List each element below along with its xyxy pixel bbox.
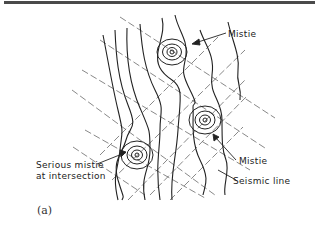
mistie-top-bullseye	[157, 39, 187, 65]
contour-lines	[103, 15, 240, 200]
serious-mistie-label-line2: at intersection	[36, 171, 106, 181]
mistie-right-label: Mistie	[239, 156, 267, 166]
panel-label: (a)	[37, 204, 52, 217]
mistie-top-label: Mistie	[228, 29, 256, 39]
mistie-right-bullseye	[189, 106, 221, 134]
contour-map	[0, 0, 328, 229]
seismic-line-label: Seismic line	[233, 176, 290, 186]
serious-mistie-label-line1: Serious mistie	[36, 160, 104, 170]
serious-mistie-bullseye	[121, 141, 153, 169]
